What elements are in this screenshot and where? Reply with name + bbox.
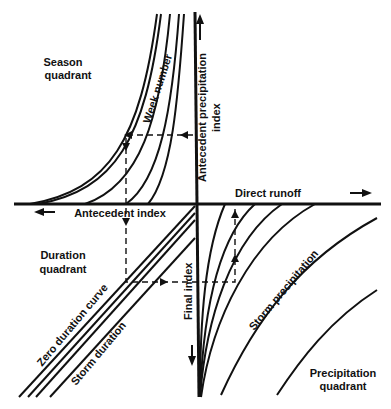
arrow-down-icon: [188, 345, 196, 366]
antecedent-precipitation-index-label: Antecedent precipitation: [196, 53, 208, 182]
nomograph-diagram: Season quadrant Duration quadrant Precip…: [0, 0, 391, 409]
duration-quadrant-label: Duration: [40, 249, 86, 261]
arrow-up-icon: [196, 14, 204, 40]
season-curves: [30, 14, 184, 204]
antecedent-precipitation-index-label-2: index: [210, 102, 222, 132]
duration-quadrant-label-2: quadrant: [39, 263, 86, 275]
precipitation-quadrant-label-2: quadrant: [319, 380, 366, 392]
arrow-down-icon: [122, 218, 130, 226]
direct-runoff-label: Direct runoff: [235, 187, 301, 199]
season-quadrant-label-2: quadrant: [44, 69, 91, 81]
storm-duration-label: Storm duration: [68, 319, 128, 387]
arrow-right-icon: [160, 278, 168, 286]
final-index-label: Final index: [182, 262, 194, 320]
antecedent-index-label: Antecedent index: [74, 207, 167, 219]
duration-lines: [19, 206, 195, 397]
week-number-label: Week number: [140, 52, 174, 125]
precipitation-quadrant-label: Precipitation: [310, 367, 377, 379]
arrow-right-icon: [350, 189, 372, 197]
season-quadrant-label: Season: [43, 56, 82, 68]
arrow-left-icon: [180, 131, 188, 139]
storm-precipitation-label: Storm precipitation: [246, 247, 320, 332]
arrow-up-icon: [231, 210, 239, 218]
arrow-left-icon: [34, 208, 55, 216]
